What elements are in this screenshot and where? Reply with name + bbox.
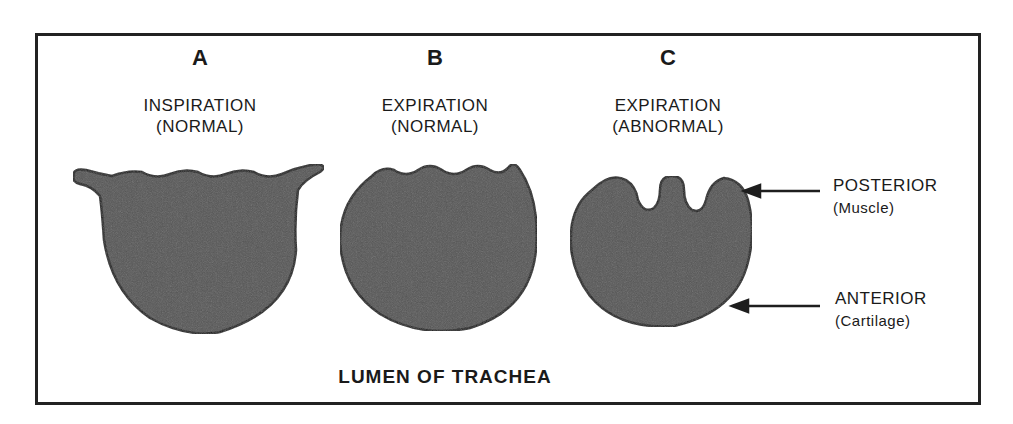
annotation-anterior: ANTERIOR (Cartilage) [835, 288, 927, 332]
annotation-posterior-title: POSTERIOR [833, 175, 938, 197]
annotation-anterior-title: ANTERIOR [835, 288, 927, 310]
annotation-posterior-sub: (Muscle) [833, 197, 938, 219]
figure-caption: LUMEN OF TRACHEA [155, 366, 735, 388]
arrow-left-icon [744, 185, 820, 197]
annotation-anterior-sub: (Cartilage) [835, 310, 927, 332]
annotation-posterior: POSTERIOR (Muscle) [833, 175, 938, 219]
arrow-left-icon [732, 300, 820, 312]
